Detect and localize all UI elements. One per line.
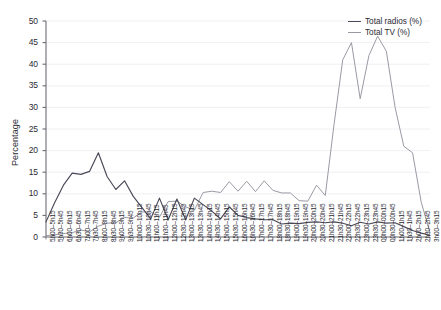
- y-axis-tick-label: 40: [16, 59, 38, 69]
- x-axis-tick-label: 22h00–22h15: [345, 203, 352, 242]
- x-axis-tick-label: 20h30–20h45: [319, 203, 326, 242]
- x-axis-tick-label: 17h00–17h15: [258, 203, 265, 242]
- x-axis-tick-label: 00h30–00h45: [389, 203, 396, 242]
- x-axis-tick-label: 23h00–23h15: [363, 203, 370, 242]
- legend-item-tv: Total TV (%): [348, 27, 422, 38]
- x-axis-tick-label: 16h00–16h15: [241, 203, 248, 242]
- x-axis-tick-label: 1h00–1h15: [398, 210, 405, 242]
- y-axis-tick-label: 20: [16, 145, 38, 155]
- x-axis-tick-label: 22h30–22h45: [354, 203, 361, 242]
- x-axis-tick-label: 9h30–9h45: [127, 210, 134, 242]
- x-axis-tick-label: 7h00–7h15: [84, 210, 91, 242]
- y-axis-tick-label: 35: [16, 80, 38, 90]
- x-axis-tick-label: 2h30–2h45: [424, 210, 431, 242]
- x-axis-tick-label: 20h00–20h15: [310, 203, 317, 242]
- y-axis-tick-label: 30: [16, 102, 38, 112]
- x-axis-tick-label: 2h00–2h15: [415, 210, 422, 242]
- x-axis-tick-label: 11h00–11h15: [153, 204, 160, 242]
- x-axis-tick-label: 5h30–5h45: [57, 210, 64, 242]
- x-axis-tick-label: 16h30–16h45: [249, 203, 256, 242]
- x-axis-tick-label: 8h30–8h45: [110, 210, 117, 242]
- x-axis-tick-label: 21h00–21h15: [328, 203, 335, 242]
- x-axis-tick-label: 7h30–7h45: [92, 210, 99, 242]
- legend-label-tv: Total TV (%): [365, 27, 410, 38]
- x-axis-tick-label: 12h00–12h15: [171, 203, 178, 242]
- x-axis-tick-label: 6h30–6h45: [75, 210, 82, 242]
- legend-swatch-radio: [348, 21, 361, 22]
- x-axis-tick-label: 6h00–6h15: [66, 210, 73, 242]
- x-axis-tick-label: 13h30–13h45: [197, 203, 204, 242]
- y-axis-tick-label: 25: [16, 124, 38, 134]
- y-axis-tick-label: 50: [16, 16, 38, 26]
- chart-legend: Total radios (%) Total TV (%): [348, 16, 422, 38]
- x-axis-tick-label: 21h30–21h45: [337, 203, 344, 242]
- x-axis-tick-label: 19h30–19h45: [302, 203, 309, 242]
- legend-label-radio: Total radios (%): [365, 16, 422, 27]
- x-axis-tick-label: 00h00–00h15: [380, 203, 387, 242]
- y-axis-tick-label: 0: [16, 232, 38, 242]
- x-axis-tick-label: 15h30–15h45: [232, 203, 239, 242]
- x-axis-tick-label: 14h30–14h45: [214, 203, 221, 242]
- x-axis-tick-label: 18h30–18h45: [284, 203, 291, 242]
- x-axis-tick-label: 1h30–1h45: [406, 210, 413, 242]
- y-axis-tick-label: 5: [16, 210, 38, 220]
- chart-container: Percentage 05101520253035404550 5h00–5h1…: [0, 0, 441, 310]
- x-axis-tick-label: 14h00–14h15: [206, 203, 213, 242]
- x-axis-tick-label: 9h00–9h15: [118, 210, 125, 242]
- x-axis-tick-label: 12h30–12h45: [180, 203, 187, 242]
- x-axis-tick-label: 18h00–18h15: [276, 203, 283, 242]
- x-axis-tick-label: 19h00–19h15: [293, 203, 300, 242]
- y-axis-tick-label: 45: [16, 37, 38, 47]
- x-axis-tick-label: 10h00–10h15: [136, 203, 143, 242]
- x-axis-tick-label: 5h00–5h15: [49, 210, 56, 242]
- x-axis-tick-label: 11h30–11h45: [162, 204, 169, 242]
- y-axis-tick-label: 10: [16, 188, 38, 198]
- chart-plot-area: [0, 0, 441, 310]
- legend-swatch-tv: [348, 32, 361, 33]
- legend-item-radio: Total radios (%): [348, 16, 422, 27]
- y-axis-tick-label: 15: [16, 167, 38, 177]
- x-axis-tick-label: 23h30–23h45: [372, 203, 379, 242]
- x-axis-tick-label: 8h00–8h15: [101, 210, 108, 242]
- x-axis-tick-label: 10h30–10h45: [145, 203, 152, 242]
- x-axis-tick-label: 17h30–17h45: [267, 203, 274, 242]
- x-axis-tick-label: 3h00–3h15: [433, 210, 440, 242]
- x-axis-tick-label: 13h00–13h15: [188, 203, 195, 242]
- x-axis-tick-label: 15h00–15h15: [223, 203, 230, 242]
